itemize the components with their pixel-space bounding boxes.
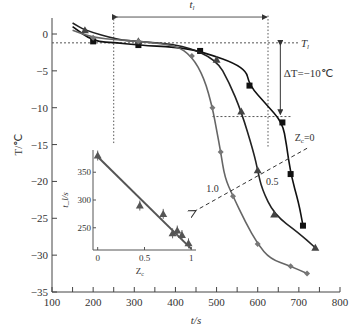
diamond-marker <box>189 53 195 59</box>
inset-x-tick-label: 0.5 <box>139 253 151 263</box>
x-tick-label: 500 <box>208 296 225 308</box>
inset-triangle-marker <box>94 152 102 159</box>
square-marker <box>288 171 294 177</box>
square-marker <box>246 83 252 89</box>
inset-triangle-marker <box>173 227 181 234</box>
y-tick-label: −25 <box>31 212 49 224</box>
diamond-marker <box>288 263 294 269</box>
y-tick-label: −5 <box>36 65 48 77</box>
inset-triangle-marker <box>136 202 144 209</box>
inset-x-label: Zc <box>136 266 145 277</box>
zc10-label: 1.0 <box>206 183 219 194</box>
inset-x-tick-label: 1 <box>189 253 194 263</box>
curve-2 <box>73 30 308 273</box>
x-axis-label: t/s <box>191 314 201 326</box>
dT-label: ΔT=−10℃ <box>284 67 333 79</box>
square-marker <box>300 223 306 229</box>
inset-y-tick-label: 300 <box>78 195 92 205</box>
x-tick-label: 600 <box>249 296 266 308</box>
x-tick-label: 200 <box>85 296 102 308</box>
diamond-marker <box>304 271 310 277</box>
inset-y-label: t_l/s <box>60 192 70 208</box>
Tl-label: Tl <box>301 37 309 51</box>
dashed-arrow <box>195 148 307 211</box>
tl-label: tl <box>189 0 194 12</box>
x-tick-label: 300 <box>126 296 143 308</box>
triangle-marker <box>237 107 245 114</box>
curve-0 <box>73 27 303 226</box>
y-tick-label: −15 <box>31 139 49 151</box>
zc05-label: 0.5 <box>266 176 279 187</box>
triangle-marker <box>254 166 262 173</box>
triangle-marker <box>81 26 89 33</box>
inset-x-tick-label: 0 <box>95 253 100 263</box>
y-tick-label: −30 <box>31 249 49 261</box>
y-tick-label: 0 <box>43 28 49 40</box>
y-tick-label: −20 <box>31 175 49 187</box>
x-tick-label: 700 <box>291 296 308 308</box>
y-tick-label: −10 <box>31 102 49 114</box>
triangle-marker <box>213 56 221 63</box>
diamond-marker <box>218 149 224 155</box>
inset-triangle-marker <box>159 210 167 217</box>
zc0-label: Zc=0 <box>295 132 315 145</box>
x-tick-label: 400 <box>167 296 184 308</box>
y-axis-label: T/℃ <box>12 134 24 156</box>
inset-y-tick-label: 250 <box>78 223 92 233</box>
square-marker <box>279 119 285 125</box>
diamond-marker <box>230 193 236 199</box>
chart-canvas: 0−5−10−15−20−25−30−351002003004005006007… <box>0 0 361 336</box>
x-tick-label: 800 <box>332 296 349 308</box>
inset-y-tick-label: 350 <box>78 167 92 177</box>
diamond-marker <box>209 105 215 111</box>
x-tick-label: 100 <box>44 296 61 308</box>
